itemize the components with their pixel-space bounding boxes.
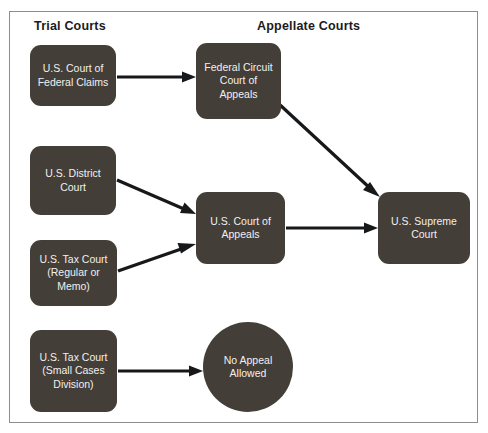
node-no-appeal-allowed[interactable]: No Appeal Allowed [203, 322, 293, 412]
node-label: No Appeal Allowed [207, 354, 289, 381]
node-us-court-of-appeals[interactable]: U.S. Court of Appeals [196, 192, 285, 264]
node-label: U.S. District Court [34, 167, 112, 194]
column-heading-appellate-courts: Appellate Courts [257, 19, 360, 33]
node-us-supreme-court[interactable]: U.S. Supreme Court [378, 192, 470, 264]
court-appeals-flow-diagram: Trial Courts Appellate Courts [0, 0, 488, 433]
node-us-court-of-federal-claims[interactable]: U.S. Court of Federal Claims [30, 45, 116, 106]
node-us-district-court[interactable]: U.S. District Court [30, 146, 116, 215]
node-label: U.S. Supreme Court [382, 215, 466, 242]
node-federal-circuit-court-of-appeals[interactable]: Federal Circuit Court of Appeals [196, 43, 281, 119]
node-label: U.S. Tax Court (Regular or Memo) [34, 253, 113, 293]
node-label: U.S. Court of Appeals [200, 215, 281, 242]
node-label: Federal Circuit Court of Appeals [200, 61, 277, 101]
node-label: U.S. Tax Court (Small Cases Division) [34, 351, 113, 391]
node-us-tax-court-regular-or-memo[interactable]: U.S. Tax Court (Regular or Memo) [30, 240, 117, 306]
node-us-tax-court-small-cases-division[interactable]: U.S. Tax Court (Small Cases Division) [30, 330, 117, 412]
column-heading-trial-courts: Trial Courts [34, 19, 106, 33]
node-label: U.S. Court of Federal Claims [34, 62, 112, 89]
